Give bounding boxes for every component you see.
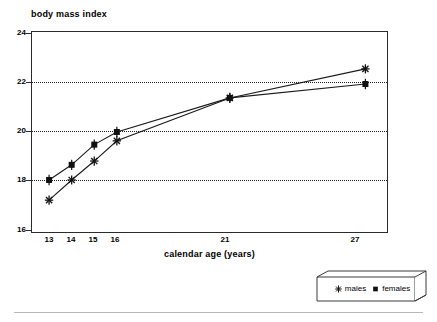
data-point-marker-asterisk xyxy=(113,136,121,145)
series-line-females xyxy=(49,84,365,180)
data-point-marker-square xyxy=(69,160,75,170)
chart-series-layer xyxy=(31,31,388,233)
data-point-marker-asterisk xyxy=(67,175,75,184)
legend: males females xyxy=(316,270,428,308)
legend-label-females: females xyxy=(382,284,410,293)
y-tick-label-22: 22 xyxy=(4,78,26,86)
x-axis-title: calendar age (years) xyxy=(31,249,388,259)
square-marker-icon xyxy=(371,284,380,294)
legend-label-males: males xyxy=(345,284,366,293)
y-axis-title: body mass index xyxy=(31,9,107,19)
data-point-marker-asterisk xyxy=(45,196,53,205)
legend-entry-females: females xyxy=(371,284,410,294)
data-point-marker-asterisk xyxy=(361,64,369,73)
x-tick-label-16: 16 xyxy=(100,236,130,244)
y-tick-label-20: 20 xyxy=(4,127,26,135)
y-tick-label-18: 18 xyxy=(4,176,26,184)
bmi-growth-chart-figure: body mass index 24 22 20 18 16 13 14 15 … xyxy=(0,0,437,322)
data-point-marker-asterisk xyxy=(90,156,98,165)
data-point-marker-square xyxy=(114,127,120,137)
y-tick-label-16: 16 xyxy=(4,226,26,234)
data-point-marker-square xyxy=(227,93,233,103)
legend-entry-males: males xyxy=(334,284,366,294)
data-point-marker-square xyxy=(91,139,97,149)
footer-rule xyxy=(14,312,423,313)
data-point-marker-square xyxy=(362,79,368,89)
x-tick-label-27: 27 xyxy=(340,236,370,244)
x-tick-label-21: 21 xyxy=(210,236,240,244)
y-tick-label-24: 24 xyxy=(4,29,26,37)
asterisk-marker-icon xyxy=(334,284,343,294)
data-point-marker-square xyxy=(46,175,52,185)
